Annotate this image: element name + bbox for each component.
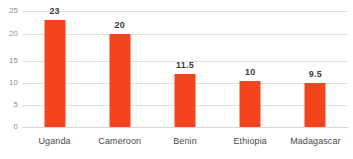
bar-value-label: 23 <box>49 7 59 16</box>
bar-group: 23 <box>22 11 87 127</box>
bar[interactable] <box>174 74 195 127</box>
bar-group: 20 <box>87 11 152 127</box>
x-axis-label-uganda: Uganda <box>22 136 87 147</box>
x-axis-label-cameroon: Cameroon <box>87 136 152 147</box>
bar-value-label: 10 <box>245 68 255 77</box>
bar-chart: 25 20 15 10 5 0 23 20 11.5 10 9.5 U <box>0 0 353 159</box>
bar[interactable] <box>305 83 326 127</box>
x-axis: Uganda Cameroon Benin Ethiopia Madagasca… <box>22 136 348 150</box>
bar-value-label: 20 <box>115 21 125 30</box>
bar-group: 11.5 <box>152 11 217 127</box>
source-note <box>4 151 348 159</box>
bars-layer: 23 20 11.5 10 9.5 <box>22 11 348 127</box>
bar[interactable] <box>109 34 130 127</box>
y-tick-label: 20 <box>0 30 18 38</box>
y-tick-label: 10 <box>0 79 18 87</box>
bar-group: 10 <box>218 11 283 127</box>
bar[interactable] <box>240 81 261 127</box>
gridline-0 <box>22 127 348 128</box>
y-tick-label: 15 <box>0 57 18 65</box>
x-axis-label-benin: Benin <box>152 136 217 147</box>
x-axis-label-ethiopia: Ethiopia <box>218 136 283 147</box>
bar-value-label: 9.5 <box>309 70 322 79</box>
x-axis-label-madagascar: Madagascar <box>283 136 348 147</box>
bar-value-label: 11.5 <box>176 61 194 70</box>
bar[interactable] <box>44 20 65 127</box>
y-tick-label: 5 <box>0 101 18 109</box>
bar-group: 9.5 <box>283 11 348 127</box>
y-tick-label: 0 <box>0 123 18 131</box>
y-tick-label: 25 <box>0 7 18 15</box>
